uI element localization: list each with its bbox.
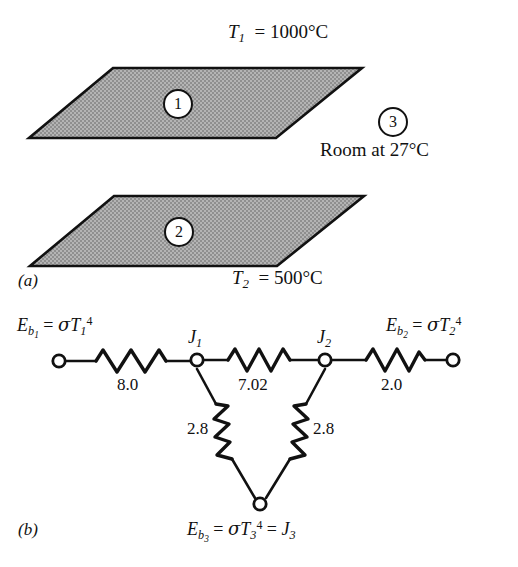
lead-j1-branch-upper bbox=[197, 369, 216, 404]
resistor-7-02-symbol bbox=[228, 349, 290, 371]
eb1-index: 1 bbox=[34, 330, 39, 340]
resistor-2-8-right-value: 2.8 bbox=[313, 420, 334, 437]
eb1-equals: = bbox=[43, 315, 53, 335]
radiation-network-figure: 1 2 3 T1 = 1000°C T2 = 500°C Room at 27°… bbox=[0, 0, 518, 567]
eb1-label: Eb1 = σT14 bbox=[17, 316, 92, 340]
eb3-label: Eb3 = σT34 = J3 bbox=[187, 520, 296, 544]
resistor-2-0-symbol bbox=[366, 349, 425, 371]
resistor-7-02-value: 7.02 bbox=[238, 376, 268, 393]
eb2-index: 2 bbox=[403, 330, 408, 340]
eb3-equals: = bbox=[213, 519, 223, 539]
eb2-E: E bbox=[386, 315, 397, 335]
resistor-8-0-symbol bbox=[96, 350, 166, 372]
eb1-T: T bbox=[70, 315, 80, 335]
eb1-T-sup: 4 bbox=[86, 314, 92, 328]
resistor-2-8-right-symbol bbox=[290, 404, 308, 459]
eb3-J-sub: 3 bbox=[289, 528, 295, 542]
eb3-index: 3 bbox=[204, 534, 209, 544]
resistor-2-0-value: 2.0 bbox=[381, 376, 402, 393]
node-j1-subscript: 1 bbox=[196, 336, 202, 350]
eb2-T: T bbox=[439, 315, 449, 335]
eb2-T-sup: 4 bbox=[455, 314, 461, 328]
node-j2-subscript: 2 bbox=[325, 336, 331, 350]
terminal-eb2-node bbox=[447, 354, 459, 366]
lead-j2-branch-upper bbox=[306, 369, 325, 404]
lead-j2-branch-lower bbox=[266, 459, 290, 498]
eb1-sigma: σ bbox=[58, 314, 70, 335]
eb3-E: E bbox=[187, 519, 198, 539]
eb2-sigma: σ bbox=[427, 314, 439, 335]
node-j2-symbol: J bbox=[317, 327, 325, 347]
node-j2 bbox=[319, 354, 331, 366]
lead-j1-branch-lower bbox=[232, 459, 255, 498]
eb3-T-sup: 4 bbox=[256, 518, 262, 532]
panel-b-network bbox=[0, 0, 518, 567]
resistor-2-8-left-value: 2.8 bbox=[187, 420, 208, 437]
panel-b-caption: (b) bbox=[18, 521, 38, 538]
node-j1 bbox=[191, 354, 203, 366]
eb3-sigma: σ bbox=[228, 518, 240, 539]
node-j1-label: J1 bbox=[188, 328, 202, 349]
resistor-2-8-left-symbol bbox=[214, 404, 232, 459]
node-j1-symbol: J bbox=[188, 327, 196, 347]
eb3-equals-2: = bbox=[267, 519, 277, 539]
node-j2-label: J2 bbox=[317, 328, 331, 349]
eb3-T: T bbox=[240, 519, 250, 539]
terminal-eb1-node bbox=[53, 355, 65, 367]
resistor-8-0-value: 8.0 bbox=[117, 376, 138, 393]
terminal-eb3-node bbox=[254, 498, 266, 510]
eb2-label: Eb2 = σT24 bbox=[386, 316, 461, 340]
eb1-E: E bbox=[17, 315, 28, 335]
eb2-equals: = bbox=[412, 315, 422, 335]
